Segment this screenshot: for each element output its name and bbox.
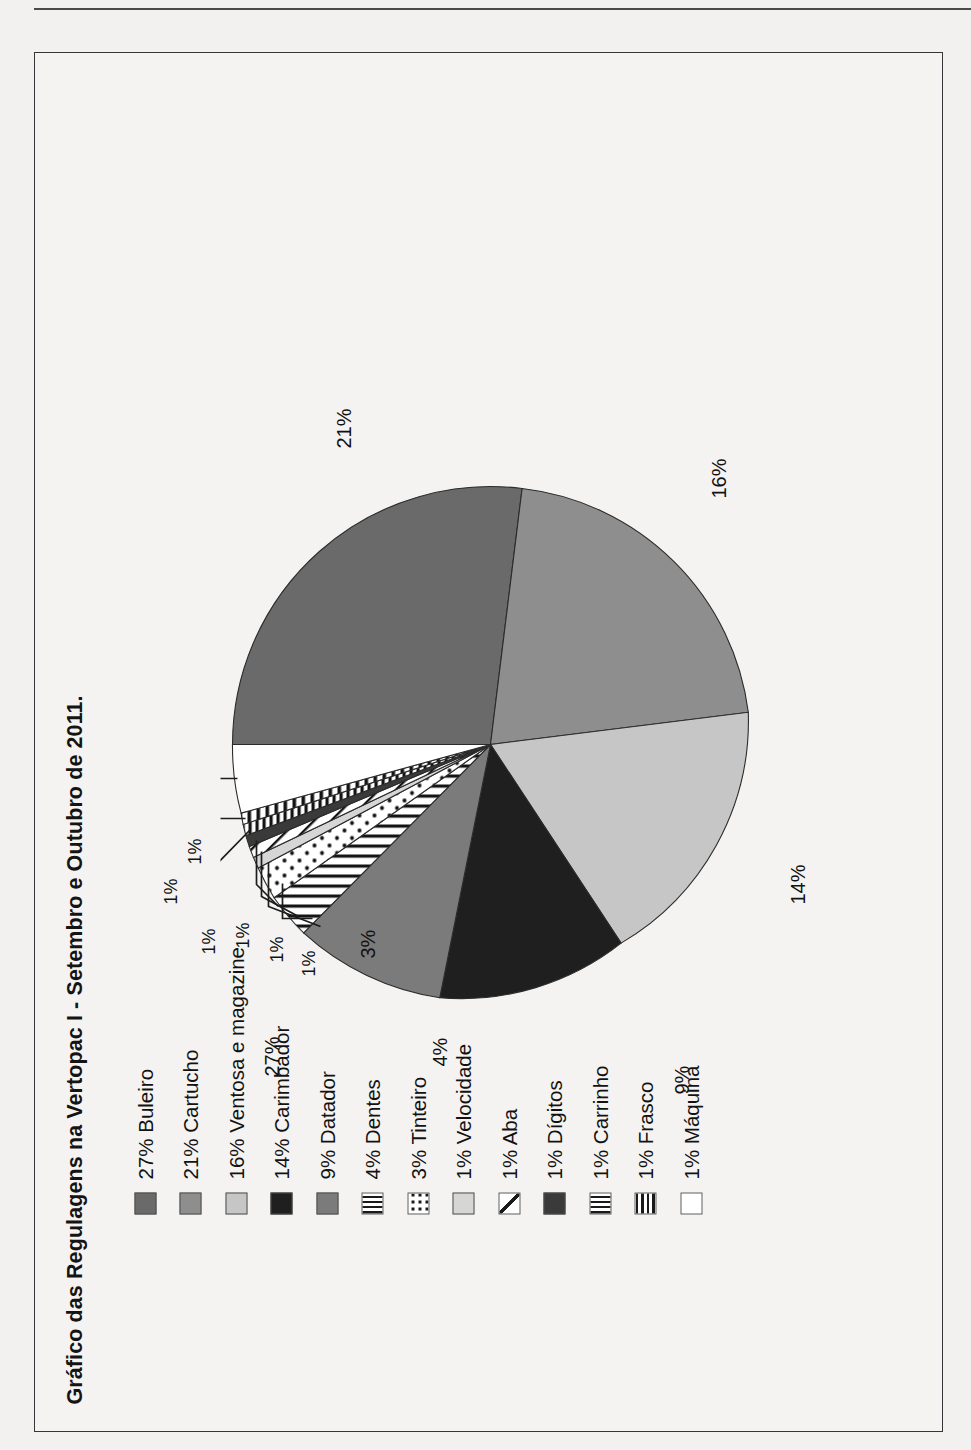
legend-label-dentes: 4% Dentes [360, 1079, 384, 1179]
pie-value-label-datador: 9% [670, 1065, 693, 1094]
leader-line-carrinho [220, 829, 250, 908]
legend-item-buleiro[interactable]: 27% Buleiro [122, 947, 168, 1215]
legend-swatch-frasco [634, 1192, 656, 1214]
pie-value-label-buleiro: 27% [260, 1036, 283, 1076]
figure-frame: Gráfico das Regulagens na Vertopac I - S… [34, 52, 943, 1432]
pie-value-label-carrinho: 1% [198, 928, 219, 954]
legend-swatch-cartucho [179, 1192, 201, 1214]
leader-line-maquina [220, 778, 237, 818]
pie-slice-buleiro[interactable] [232, 486, 522, 744]
legend-swatch-dentes [361, 1192, 383, 1214]
rotated-chart-canvas: Gráfico das Regulagens na Vertopac I - S… [34, 52, 943, 1432]
pie-value-label-cartucho: 21% [332, 408, 355, 448]
page-top-rule [34, 8, 971, 10]
pie-chart-svg [220, 474, 760, 1014]
pie-slices [232, 486, 748, 998]
legend-swatch-tinteiro [407, 1192, 429, 1214]
legend-swatch-velocidade [452, 1192, 474, 1214]
legend-label-cartucho: 21% Cartucho [178, 1049, 202, 1179]
pie-value-label-carimbador: 14% [786, 864, 809, 904]
legend-item-cartucho[interactable]: 21% Cartucho [168, 947, 214, 1215]
pie-value-label-maquina: 1% [184, 838, 205, 864]
legend-swatch-carimbador [270, 1192, 292, 1214]
pie-value-label-frasco: 1% [160, 878, 181, 904]
legend-swatch-aba [498, 1192, 520, 1214]
legend-label-frasco: 1% Frasco [633, 1081, 657, 1179]
pie-value-label-digitos: 1% [232, 922, 253, 948]
legend-label-aba: 1% Aba [497, 1108, 521, 1179]
pie-slice-cartucho[interactable] [490, 488, 748, 744]
pie-value-label-dentes: 4% [428, 1037, 451, 1066]
legend-swatch-ventosa-e-magazine [225, 1192, 247, 1214]
page-background: Gráfico das Regulagens na Vertopac I - S… [0, 0, 971, 1450]
pie-value-label-tinteiro: 3% [356, 929, 379, 958]
pie-value-label-ventosa-e-magazine: 16% [707, 458, 730, 498]
legend-label-carrinho: 1% Carrinho [588, 1065, 612, 1179]
pie-value-label-velocidade: 1% [298, 950, 319, 976]
pie-value-label-aba: 1% [266, 936, 287, 962]
pie-chart: 27% 21% 16% 14% 9% 4% 3% 1% 1% 1% 1% 1% … [220, 474, 760, 1014]
legend-swatch-maquina [680, 1192, 702, 1214]
legend-label-velocidade: 1% Velocidade [451, 1043, 475, 1179]
legend-swatch-datador [316, 1192, 338, 1214]
legend-swatch-carrinho [589, 1192, 611, 1214]
page-title: Gráfico das Regulagens na Vertopac I - S… [62, 695, 87, 1404]
legend-swatch-digitos [543, 1192, 565, 1214]
legend-label-buleiro: 27% Buleiro [133, 1068, 157, 1179]
legend-label-digitos: 1% Dígitos [542, 1080, 566, 1179]
legend-label-datador: 9% Datador [315, 1071, 339, 1179]
legend-swatch-buleiro [134, 1192, 156, 1214]
legend-label-tinteiro: 3% Tinteiro [406, 1076, 430, 1179]
